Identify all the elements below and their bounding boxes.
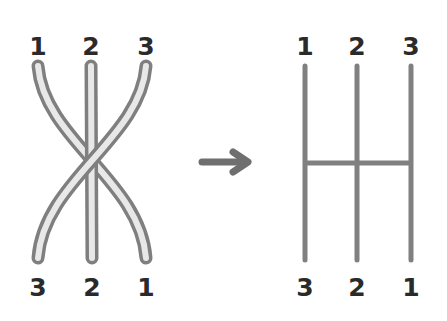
right-bottom-label-1: 3 [296,273,313,302]
right-panel-ladder: 1 2 3 3 2 1 [296,32,419,302]
left-top-label-3: 3 [137,32,154,61]
left-top-label-1: 1 [29,32,46,61]
right-top-label-1: 1 [296,32,313,61]
left-bottom-label-3: 1 [137,273,154,302]
left-bottom-label-1: 3 [29,273,46,302]
left-panel-braid: 1 2 3 3 2 1 [29,32,154,302]
right-top-label-2: 2 [348,32,365,61]
right-bottom-label-2: 2 [348,273,365,302]
left-bottom-label-2: 2 [83,273,100,302]
braid-to-ladder-diagram: 1 2 3 3 2 1 1 2 3 3 2 1 [0,0,447,321]
right-top-label-3: 3 [402,32,419,61]
left-top-label-2: 2 [82,32,99,61]
arrow-right-icon [202,152,248,172]
right-bottom-label-3: 1 [402,273,419,302]
